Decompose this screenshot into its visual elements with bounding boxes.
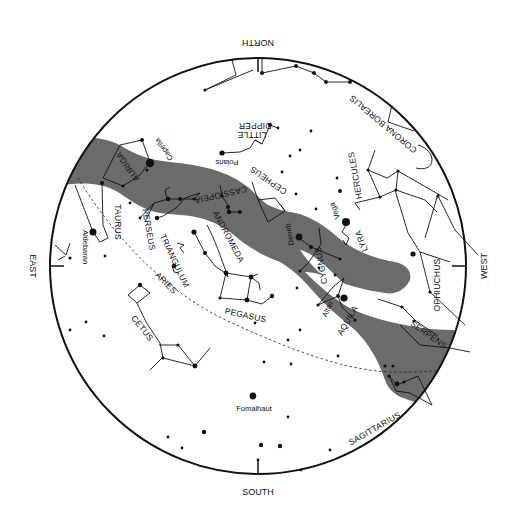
milky-way: [40, 137, 470, 430]
label-cepheus: CEPHEUS: [248, 164, 289, 197]
star-vega: [342, 218, 350, 226]
star-fomalhaut: [250, 393, 257, 400]
label-sagittarius: SAGITTARIUS: [347, 409, 403, 447]
star-chart: NORTH SOUTH EAST WEST AURIGA TAURUS PERS…: [0, 0, 515, 527]
label-south: SOUTH: [242, 487, 274, 497]
label-vega: Vega: [327, 201, 342, 221]
label-north: NORTH: [242, 38, 274, 48]
label-ophiuchus: OPHIUCHUS: [432, 258, 442, 311]
label-fomalhaut: Fomalhaut: [236, 404, 272, 413]
label-west: WEST: [479, 252, 489, 279]
star-deneb: [296, 234, 303, 241]
label-east: EAST: [28, 254, 38, 278]
label-polaris: Polaris: [215, 158, 238, 167]
label-taurus: TAURUS: [113, 204, 123, 240]
label-perseus: PERSEUS: [140, 208, 157, 251]
label-capella: Capella: [152, 136, 174, 163]
label-little-dipper-line2: DIPPER: [239, 121, 272, 131]
label-aldebaran: Aldebaran: [81, 230, 90, 264]
label-aries: ARIES: [153, 270, 179, 296]
star-polaris: [219, 150, 224, 155]
star-capella: [146, 159, 154, 167]
label-cetus: CETUS: [129, 313, 155, 343]
label-hercules: HERCULES: [346, 151, 364, 200]
label-corona-borealis: CORONA BOREALIS: [347, 93, 418, 155]
label-pegasus: PEGASUS: [224, 306, 268, 325]
star-altair: [340, 294, 347, 301]
